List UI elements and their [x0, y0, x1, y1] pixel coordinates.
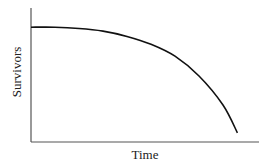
y-axis-label: Survivors [9, 47, 24, 98]
x-axis-label: Time [132, 147, 159, 162]
survivorship-chart: Time Survivors [0, 0, 273, 167]
survivorship-curve [31, 27, 237, 133]
